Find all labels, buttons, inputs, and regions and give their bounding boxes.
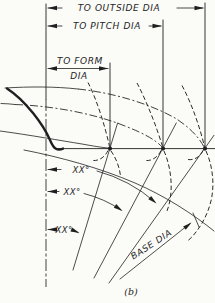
tooth-profile-curve <box>7 89 63 150</box>
phantom-profile-3-fillet <box>188 151 203 160</box>
form-dia-label-line1: TO FORM <box>57 56 103 66</box>
form-dia-dimension: TO FORM DIA <box>48 56 109 81</box>
pitch-dia-arc <box>15 105 162 148</box>
phantom-profile-1-fillet <box>93 151 108 161</box>
figure-caption: (b) <box>124 286 138 297</box>
contact-point-pitch-dia <box>161 147 165 151</box>
outside-dim-left-arrow-icon <box>48 6 58 10</box>
pitch-dim-right-arrow-icon <box>153 24 163 28</box>
angle2-label: XX° <box>62 187 80 197</box>
contact-point-outside-dia <box>203 147 207 151</box>
phantom-profile-3-flank <box>182 86 205 147</box>
base-dia-tick <box>193 213 199 227</box>
gear-involute-diagram: TO OUTSIDE DIA TO PITCH DIA TO FORM DIA <box>0 0 215 303</box>
outside-dia-arc <box>78 89 204 147</box>
pitch-dia-dimension: TO PITCH DIA <box>48 21 163 31</box>
radial-line-3 <box>109 135 214 283</box>
angle3-label: XX° <box>54 225 72 235</box>
outside-dia-dimension: TO OUTSIDE DIA <box>48 3 205 13</box>
pitch-dia-label: TO PITCH DIA <box>73 21 141 31</box>
form-dim-right-arrow-icon <box>99 66 109 70</box>
form-dia-label-line2: DIA <box>70 71 88 81</box>
angle-dimension-pitch: XX° <box>48 187 123 212</box>
pitch-dia-arc-solid <box>1 104 15 105</box>
outside-dia-label: TO OUTSIDE DIA <box>78 3 161 13</box>
phantom-tooth-profile-3 <box>182 86 213 241</box>
base-dia-label: BASE DIA <box>129 227 174 261</box>
angle2-arc-arrow-icon <box>114 204 123 211</box>
base-dia-callout: BASE DIA <box>120 213 199 279</box>
angle2-left-arrow-icon <box>48 189 58 193</box>
contact-point-form-dia <box>108 147 112 151</box>
radial-line-1 <box>73 123 118 270</box>
figure-canvas: TO OUTSIDE DIA TO PITCH DIA TO FORM DIA <box>0 0 215 303</box>
angle1-dimension-arc <box>97 171 155 202</box>
outside-dia-arc-solid <box>5 87 78 89</box>
angle1-left-arrow-icon <box>48 167 58 171</box>
angle-dimension-form: XX° <box>48 225 80 235</box>
pitch-dim-left-arrow-icon <box>48 24 58 28</box>
outside-dim-right-arrow-icon <box>195 6 205 10</box>
base-dia-leader-arrow-icon <box>183 223 191 230</box>
phantom-profile-1-base-leg <box>111 151 121 176</box>
form-dim-left-arrow-icon <box>48 66 58 70</box>
angle1-label: XX° <box>71 165 89 175</box>
phantom-profile-2-base-leg <box>164 151 171 211</box>
phantom-profile-2-flank <box>137 83 163 147</box>
